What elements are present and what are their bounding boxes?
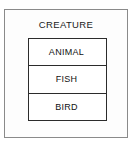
member-row-bird: BIRD xyxy=(29,94,106,120)
member-row-fish: FISH xyxy=(29,66,106,93)
creature-members-box: ANIMAL FISH BIRD xyxy=(28,38,107,121)
creature-outer-box: CREATURE ANIMAL FISH BIRD xyxy=(4,9,128,138)
outer-box-title: CREATURE xyxy=(5,19,127,30)
member-label-animal: ANIMAL xyxy=(49,47,84,57)
member-label-fish: FISH xyxy=(56,74,78,84)
diagram-canvas: CREATURE ANIMAL FISH BIRD xyxy=(0,0,137,146)
member-row-animal: ANIMAL xyxy=(29,39,106,66)
member-label-bird: BIRD xyxy=(55,102,78,112)
